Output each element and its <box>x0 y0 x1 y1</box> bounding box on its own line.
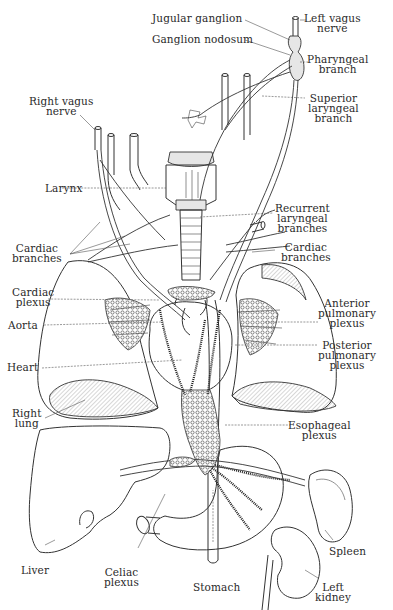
label-anterior-pulmonary-plexus: Anterior pulmonary plexus <box>318 298 376 328</box>
label-left-kidney: Left kidney <box>315 582 351 602</box>
label-liver: Liver <box>21 565 49 575</box>
label-aorta: Aorta <box>8 320 38 330</box>
label-stomach: Stomach <box>193 582 240 592</box>
label-posterior-pulmonary-plexus: Posterior pulmonary plexus <box>318 340 376 370</box>
label-cardiac-plexus: Cardiac plexus <box>12 287 54 307</box>
spleen <box>309 470 353 542</box>
right-lung <box>38 261 158 420</box>
label-right-lung: Right lung <box>12 408 41 428</box>
label-right-vagus-nerve: Right vagus nerve <box>29 96 93 116</box>
label-ganglion-nodosum: Ganglion nodosum <box>152 34 253 44</box>
label-heart: Heart <box>7 362 38 372</box>
larynx-trachea <box>166 152 216 280</box>
label-recurrent-laryngeal-branches: Recurrent laryngeal branches <box>275 203 330 233</box>
label-cardiac-branches-left: Cardiac branches <box>281 242 331 262</box>
label-cardiac-branches-right: Cardiac branches <box>12 243 62 263</box>
label-left-vagus-nerve: Left vagus nerve <box>304 13 361 33</box>
label-superior-laryngeal-branch: Superior laryngeal branch <box>308 93 359 123</box>
neck-vessels <box>95 74 250 211</box>
duodenum <box>134 514 160 535</box>
label-larynx: Larynx <box>45 183 82 193</box>
liver <box>29 426 170 553</box>
label-esophageal-plexus: Esophageal plexus <box>288 420 351 440</box>
label-pharyngeal-branch: Pharyngeal branch <box>307 54 368 74</box>
label-jugular-ganglion: Jugular ganglion <box>152 13 242 23</box>
left-kidney <box>262 527 320 610</box>
label-spleen: Spleen <box>329 546 366 556</box>
left-lung <box>232 263 336 413</box>
label-celiac-plexus: Celiac plexus <box>104 567 139 587</box>
